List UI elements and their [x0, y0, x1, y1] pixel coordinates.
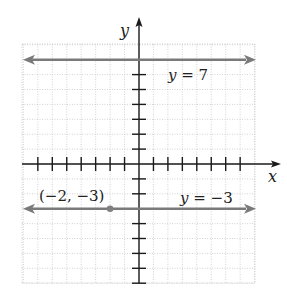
x-axis-label: x — [268, 167, 277, 186]
point-label: (−2, −3) — [39, 187, 104, 205]
data-point — [107, 205, 114, 212]
y-axis-label: y — [119, 21, 130, 40]
line-label-y7: y = 7 — [167, 66, 208, 84]
coordinate-plane: y x y = 7 y = −3 (−2, −3) — [0, 0, 287, 292]
graph-points — [107, 205, 114, 212]
axes — [22, 17, 281, 283]
line-label-y-3: y = −3 — [179, 189, 233, 207]
